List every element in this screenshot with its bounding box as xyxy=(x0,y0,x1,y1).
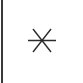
asterisk-glyph xyxy=(27,28,57,53)
glyph-area xyxy=(0,0,83,83)
glyph-tile xyxy=(0,0,83,83)
